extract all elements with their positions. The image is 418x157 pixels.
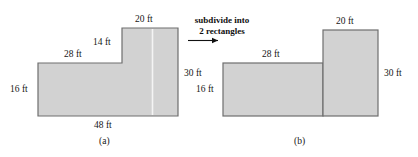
label-a-top-left: 28 ft [64,50,82,60]
operation-label: subdivide into 2 rectangles [186,15,258,37]
label-a-left: 16 ft [10,85,28,95]
rectangle-b-right [323,30,378,116]
label-a-step: 14 ft [93,38,111,48]
figure-container: 28 ft 14 ft 20 ft 16 ft 30 ft 48 ft (a) … [0,0,418,157]
label-b-top-right: 20 ft [336,17,354,27]
operation-line-1: subdivide into [195,15,249,25]
label-b-top-left: 28 ft [262,50,280,60]
rectangle-b-left [223,63,323,116]
label-a-top-right: 20 ft [135,15,153,25]
arrow-right-icon [188,38,218,43]
label-b-left: 16 ft [196,85,214,95]
label-a-bottom: 48 ft [94,121,112,131]
operation-line-2: 2 rectangles [199,26,245,36]
label-a-right: 30 ft [184,69,202,79]
caption-a: (a) [99,137,110,147]
caption-b: (b) [294,137,305,147]
label-b-right: 30 ft [384,69,402,79]
